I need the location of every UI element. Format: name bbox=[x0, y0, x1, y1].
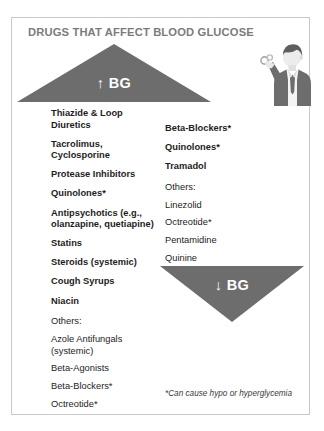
page-title: DRUGS THAT AFFECT BLOOD GLUCOSE bbox=[28, 26, 254, 38]
decrease-bg-drug-list: Beta-Blockers* Quinolones* Tramadol Othe… bbox=[165, 123, 285, 271]
list-item: Beta-Blockers* bbox=[165, 123, 285, 135]
list-item: Quinolones* bbox=[51, 188, 163, 200]
footnote: *Can cause hypo or hyperglycemia bbox=[165, 388, 305, 399]
list-item: Steroids (systemic) bbox=[51, 257, 163, 269]
person-holding-pill-icon bbox=[254, 36, 316, 106]
list-item: Antipsychotics (e.g., olanzapine, quetia… bbox=[51, 208, 163, 231]
list-item: Quinolones* bbox=[165, 142, 285, 154]
list-item: Linezolid bbox=[165, 200, 285, 212]
list-item: Tramadol bbox=[165, 161, 285, 173]
up-triangle-label: ↑ BG bbox=[17, 75, 211, 91]
list-item: Thiazide & Loop Diuretics bbox=[51, 108, 163, 131]
list-item: Cough Syrups bbox=[51, 276, 163, 288]
infographic-card: DRUGS THAT AFFECT BLOOD GLUCOSE bbox=[11, 17, 310, 415]
down-triangle-label: ↓ BG bbox=[160, 277, 304, 293]
list-item: Beta-Blockers* bbox=[51, 381, 163, 393]
down-triangle-shape bbox=[160, 266, 304, 322]
increase-bg-drug-list: Thiazide & Loop Diuretics Tacrolimus, Cy… bbox=[51, 108, 163, 417]
list-item: Statins bbox=[51, 238, 163, 250]
others-heading: Others: bbox=[51, 316, 163, 328]
list-item: Beta-Agonists bbox=[51, 363, 163, 375]
increase-bg-triangle: ↑ BG bbox=[17, 44, 211, 102]
list-item: Protease Inhibitors bbox=[51, 169, 163, 181]
list-item: Pentamidine bbox=[165, 235, 285, 247]
decrease-bg-triangle: ↓ BG bbox=[160, 266, 304, 322]
list-item: Quinine bbox=[165, 253, 285, 265]
list-item: Niacin bbox=[51, 296, 163, 308]
up-triangle-shape bbox=[17, 44, 211, 102]
list-item: Octreotide* bbox=[165, 217, 285, 229]
list-item: Tacrolimus, Cyclosporine bbox=[51, 139, 163, 162]
others-heading: Others: bbox=[165, 182, 285, 194]
list-item: Octreotide* bbox=[51, 399, 163, 411]
list-item: Azole Antifungals (systemic) bbox=[51, 334, 163, 357]
